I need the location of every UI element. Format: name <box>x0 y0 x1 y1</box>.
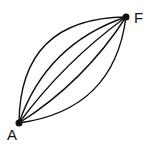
edge-a-f-3 <box>19 17 126 123</box>
node-a-label: A <box>7 127 17 142</box>
edge-a-f-4 <box>19 17 126 123</box>
edge-a-f-2 <box>19 17 126 123</box>
edge-a-f-1 <box>19 17 126 123</box>
node-f-label: F <box>134 10 143 25</box>
edge-a-f-5 <box>19 17 126 123</box>
diagram-canvas <box>0 0 150 146</box>
node-f-dot <box>123 14 130 21</box>
